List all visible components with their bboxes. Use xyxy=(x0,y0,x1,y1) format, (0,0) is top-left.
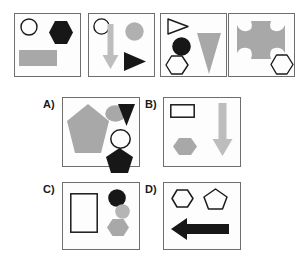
pentagon-black-icon xyxy=(106,148,133,173)
option-a-label: A) xyxy=(43,99,55,110)
circle-gray-icon xyxy=(125,22,144,41)
triangle-right-outline-icon xyxy=(167,18,189,35)
circle-gray-icon xyxy=(115,204,130,219)
rectangle-outline-icon xyxy=(70,193,98,233)
rectangle-outline-icon xyxy=(170,104,195,118)
arrow-left-black-icon xyxy=(171,218,230,240)
circle-black-icon xyxy=(172,37,191,56)
arrow-down-gray-icon xyxy=(212,103,233,157)
prompt-panel-2[interactable] xyxy=(88,13,155,77)
hexagon-outline-icon xyxy=(171,189,194,208)
option-panel-a[interactable] xyxy=(62,97,140,167)
hexagon-black-icon xyxy=(48,20,74,45)
pentagon-outline-icon xyxy=(203,188,228,210)
prompt-panel-1[interactable] xyxy=(14,13,81,77)
option-d-label: D) xyxy=(145,184,157,195)
hexagon-gray-icon xyxy=(173,138,197,155)
rectangle-gray-icon xyxy=(19,50,57,66)
hexagon-outline-icon xyxy=(270,54,294,75)
triangle-right-black-icon xyxy=(124,52,147,71)
option-c-label: C) xyxy=(43,184,55,195)
option-panel-c[interactable] xyxy=(62,182,140,250)
pentagon-gray-icon xyxy=(67,104,109,154)
prompt-panel-4[interactable] xyxy=(228,13,295,77)
hexagon-outline-icon xyxy=(165,55,189,75)
prompt-panel-3[interactable] xyxy=(160,13,227,77)
triangle-down-black-icon xyxy=(118,104,135,126)
arrow-down-gray-icon xyxy=(102,24,119,70)
circle-outline-icon xyxy=(20,18,38,36)
option-panel-d[interactable] xyxy=(163,182,241,250)
hexagon-gray-icon xyxy=(107,219,129,236)
option-panel-b[interactable] xyxy=(163,97,241,167)
triangle-down-gray-icon xyxy=(197,33,221,74)
puzzle-canvas: A) B) xyxy=(0,0,304,269)
option-b-label: B) xyxy=(145,99,157,110)
circle-outline-icon xyxy=(110,129,131,149)
